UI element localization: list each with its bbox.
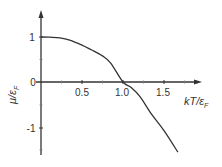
x-tick-label-0-5: 0.5 <box>75 87 89 98</box>
x-axis <box>36 80 202 85</box>
y-tick-label-1: 1 <box>29 32 35 43</box>
chart-container: 1 0 -1 0.5 1.0 1.5 kT/εF μ/εF <box>0 0 222 167</box>
y-axis-arrow-icon <box>39 10 44 18</box>
x-tick-label-1-0: 1.0 <box>115 87 129 98</box>
chart-svg: 1 0 -1 0.5 1.0 1.5 kT/εF μ/εF <box>0 0 222 167</box>
y-tick-label-minus-1: -1 <box>27 123 36 134</box>
x-tick-label-1-5: 1.5 <box>156 87 170 98</box>
x-axis-title: kT/εF <box>184 95 209 109</box>
y-axis-title: μ/εF <box>6 85 20 105</box>
x-axis-arrow-icon <box>194 80 202 85</box>
y-tick-label-0: 0 <box>30 77 36 88</box>
